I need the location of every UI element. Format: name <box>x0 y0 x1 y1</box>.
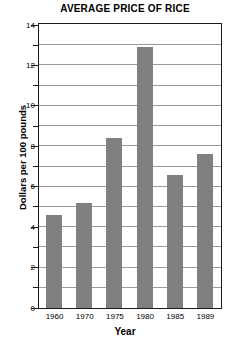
x-axis-tick-label-1960: 1960 <box>40 312 70 321</box>
bar-1989 <box>197 154 213 308</box>
gridline <box>39 166 221 167</box>
y-axis-tick-label: 0 <box>5 303 35 312</box>
gridline <box>39 105 221 106</box>
x-axis-tick-label-1989: 1989 <box>190 312 220 321</box>
x-axis-tick-label-1985: 1985 <box>160 312 190 321</box>
x-axis-tick-label-1975: 1975 <box>100 312 130 321</box>
gridline <box>39 145 221 146</box>
gridline <box>39 287 221 288</box>
gridline <box>39 125 221 126</box>
y-axis-tick-label: 10 <box>5 101 35 110</box>
gridline <box>39 85 221 86</box>
y-axis-tick-label: 14 <box>5 20 35 29</box>
chart-title: AVERAGE PRICE OF RICE <box>28 3 222 14</box>
plot-area <box>38 23 222 309</box>
bar-1980 <box>137 47 153 308</box>
bar-1970 <box>76 203 92 308</box>
bar-1960 <box>46 215 62 308</box>
y-axis-tick-label: 8 <box>5 141 35 150</box>
y-axis-tick <box>33 166 38 167</box>
x-axis-title: Year <box>28 326 222 337</box>
y-axis-tick <box>33 247 38 248</box>
x-axis-tick-label-1980: 1980 <box>130 312 160 321</box>
y-axis-tick-label: 6 <box>5 182 35 191</box>
gridline <box>39 226 221 227</box>
gridline <box>39 186 221 187</box>
y-axis-tick <box>33 85 38 86</box>
gridline <box>39 64 221 65</box>
bar-chart-figure: AVERAGE PRICE OF RICE Dollars per 100 po… <box>0 0 246 343</box>
y-axis-tick-label: 12 <box>5 60 35 69</box>
y-axis-tick <box>33 206 38 207</box>
gridline <box>39 206 221 207</box>
y-axis-tick <box>33 287 38 288</box>
gridline <box>39 246 221 247</box>
gridline <box>39 267 221 268</box>
y-axis-tick <box>33 45 38 46</box>
y-axis-tick-label: 4 <box>5 222 35 231</box>
bar-1975 <box>106 138 122 308</box>
x-axis-tick-label-1970: 1970 <box>70 312 100 321</box>
y-axis-tick-label: 2 <box>5 263 35 272</box>
bar-1985 <box>167 175 183 308</box>
y-axis-tick <box>33 126 38 127</box>
gridline <box>39 44 221 45</box>
